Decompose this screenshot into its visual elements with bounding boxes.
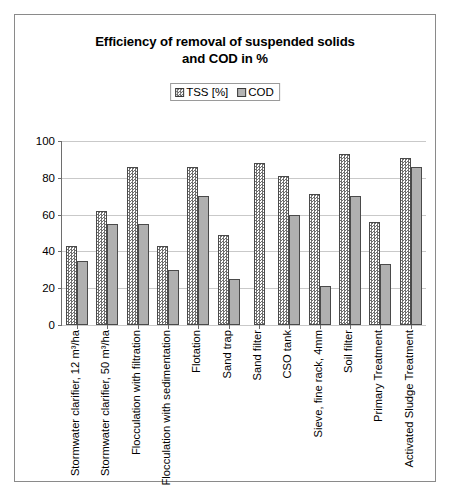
x-label-cell: Sand trap xyxy=(213,327,243,492)
bar-cod xyxy=(77,261,88,325)
x-label-cell: Activated Sludge Treatment xyxy=(395,327,425,492)
x-axis-label: Primary Treatment xyxy=(374,330,385,422)
x-axis-label: Flocculation with filtration xyxy=(131,330,142,455)
bar-cod xyxy=(138,224,149,325)
bar-cod xyxy=(411,167,422,325)
bar-group xyxy=(396,141,426,325)
bar-group xyxy=(335,141,365,325)
bar-group xyxy=(244,141,274,325)
bar-tss xyxy=(127,167,138,325)
bar-group xyxy=(365,141,395,325)
x-axis-label: Flotation xyxy=(192,330,203,373)
y-tick-label-60: 60 xyxy=(42,209,55,221)
bar-group xyxy=(62,141,92,325)
bar-cod xyxy=(107,224,118,325)
bar-group xyxy=(123,141,153,325)
x-axis-label: Sand filter xyxy=(253,330,264,380)
bar-tss xyxy=(66,246,77,325)
x-label-cell: Flocculation with sedimentation xyxy=(152,327,182,492)
x-axis-label: Sand trap xyxy=(222,330,233,379)
x-label-cell: CSO tank xyxy=(273,327,303,492)
bar-tss xyxy=(369,222,380,325)
bar-tss xyxy=(400,158,411,325)
bar-tss xyxy=(96,211,107,325)
bar-group xyxy=(183,141,213,325)
plot-wrapper: 020406080100 Stormwater clarifier, 12 m³… xyxy=(15,15,435,481)
y-tick-0 xyxy=(58,325,62,326)
bar-tss xyxy=(309,194,320,325)
bar-tss xyxy=(187,167,198,325)
bar-cod xyxy=(198,196,209,325)
y-tick-label-20: 20 xyxy=(42,282,55,294)
chart-frame: Efficiency of removal of suspended solid… xyxy=(14,14,436,482)
bar-cod xyxy=(229,279,240,325)
x-axis-label: Stormwater clarifier, 50 m³/ha xyxy=(101,330,112,476)
bar-group xyxy=(305,141,335,325)
bar-tss xyxy=(339,154,350,325)
plot-area: 020406080100 xyxy=(61,141,426,326)
bar-group xyxy=(214,141,244,325)
bar-tss xyxy=(157,246,168,325)
x-axis-labels: Stormwater clarifier, 12 m³/haStormwater… xyxy=(61,327,425,492)
bar-group xyxy=(92,141,122,325)
bar-tss xyxy=(254,163,265,325)
x-label-cell: Stormwater clarifier, 50 m³/ha xyxy=(91,327,121,492)
y-tick-label-100: 100 xyxy=(36,135,55,147)
y-tick-label-40: 40 xyxy=(42,245,55,257)
gridline-0 xyxy=(62,325,426,326)
y-tick-label-80: 80 xyxy=(42,172,55,184)
x-axis-label: Flocculation with sedimentation xyxy=(162,330,173,485)
bar-cod xyxy=(289,215,300,325)
x-label-cell: Flotation xyxy=(182,327,212,492)
x-label-cell: Stormwater clarifier, 12 m³/ha xyxy=(61,327,91,492)
bar-tss xyxy=(278,176,289,325)
bar-series-container xyxy=(62,141,426,325)
bar-cod xyxy=(168,270,179,325)
x-axis-label: Soil filter xyxy=(344,330,355,373)
bar-cod xyxy=(320,286,331,325)
x-label-cell: Sand filter xyxy=(243,327,273,492)
x-label-cell: Flocculation with filtration xyxy=(122,327,152,492)
x-label-cell: Primary Treatment xyxy=(364,327,394,492)
x-axis-label: CSO tank xyxy=(283,330,294,379)
bar-cod xyxy=(350,196,361,325)
x-axis-label: Stormwater clarifier, 12 m³/ha xyxy=(71,330,82,476)
bar-tss xyxy=(218,235,229,325)
y-tick-label-0: 0 xyxy=(49,319,55,331)
bar-group xyxy=(153,141,183,325)
x-label-cell: Sieve, fine rack, 4mm xyxy=(304,327,334,492)
x-label-cell: Soil filter xyxy=(334,327,364,492)
x-axis-label: Activated Sludge Treatment xyxy=(404,330,415,467)
bar-group xyxy=(274,141,304,325)
x-axis-label: Sieve, fine rack, 4mm xyxy=(313,330,324,438)
bar-cod xyxy=(380,264,391,325)
